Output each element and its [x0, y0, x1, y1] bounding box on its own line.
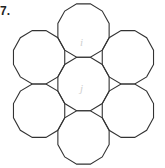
- dodecagon-bottom: [58, 111, 109, 164]
- faint-label-center: j: [78, 82, 83, 94]
- dodecagon-tiling-figure: i j: [0, 0, 165, 168]
- dodecagon-lower-right: [102, 84, 153, 137]
- dodecagon-upper-left: [13, 31, 64, 84]
- dodecagon-top: [58, 4, 109, 57]
- dodecagon-center: [58, 57, 109, 110]
- faint-label-top: i: [80, 36, 83, 48]
- dodecagon-lower-left: [13, 84, 64, 137]
- dodecagon-upper-right: [102, 31, 153, 84]
